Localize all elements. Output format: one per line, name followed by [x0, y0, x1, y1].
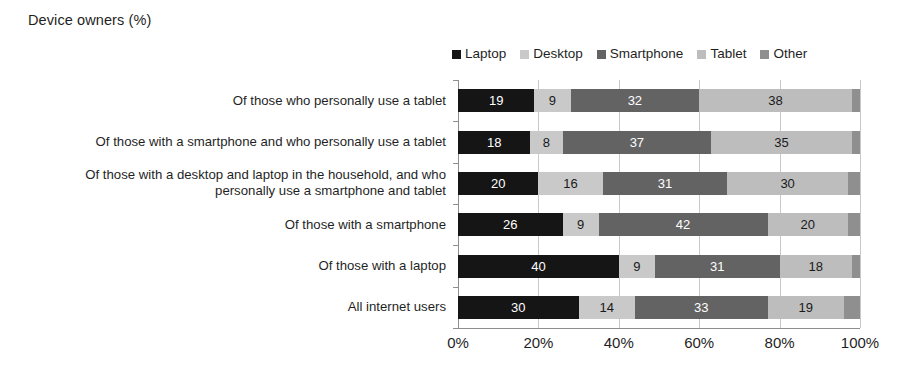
- bar-segment-value-label: 19: [798, 301, 812, 314]
- y-axis-tick-mark: [453, 287, 458, 288]
- legend-swatch-icon: [452, 50, 461, 59]
- x-axis-tick-label: 60%: [684, 334, 714, 351]
- bar-segment-other[interactable]: [848, 172, 860, 195]
- bar-segment-value-label: 32: [628, 94, 642, 107]
- legend-item-label: Laptop: [465, 47, 506, 61]
- bar-segment-value-label: 9: [577, 218, 584, 231]
- bar-segment-smartphone[interactable]: 31: [655, 255, 780, 278]
- bar-segment-value-label: 35: [774, 136, 788, 149]
- bar-segment-value-label: 31: [658, 177, 672, 190]
- bar-segment-desktop[interactable]: 9: [534, 89, 570, 112]
- y-axis-tick-mark: [453, 80, 458, 81]
- category-label: Of those with a laptop: [30, 258, 446, 274]
- bar-segment-laptop[interactable]: 30: [458, 296, 579, 319]
- x-axis-tick-label: 0%: [447, 334, 469, 351]
- legend-swatch-icon: [597, 50, 606, 59]
- legend-item-label: Other: [773, 47, 807, 61]
- bar-row[interactable]: 2694220: [458, 213, 860, 236]
- bar-segment-laptop[interactable]: 40: [458, 255, 619, 278]
- bar-segment-value-label: 38: [768, 94, 782, 107]
- legend-item-laptop[interactable]: Laptop: [452, 47, 506, 61]
- bar-segment-laptop[interactable]: 19: [458, 89, 534, 112]
- bar-row[interactable]: 20163130: [458, 172, 860, 195]
- bar-segment-value-label: 18: [809, 260, 823, 273]
- legend-item-tablet[interactable]: Tablet: [697, 47, 746, 61]
- bar-segment-value-label: 37: [630, 136, 644, 149]
- chart-title: Device owners (%): [28, 12, 151, 28]
- y-axis-tick-mark: [453, 328, 458, 329]
- gridline: [619, 80, 620, 328]
- bar-segment-tablet[interactable]: 19: [768, 296, 844, 319]
- bar-segment-desktop[interactable]: 8: [530, 131, 562, 154]
- bar-segment-laptop[interactable]: 20: [458, 172, 538, 195]
- bar-segment-desktop[interactable]: 9: [563, 213, 599, 236]
- bar-segment-smartphone[interactable]: 32: [571, 89, 700, 112]
- bar-row[interactable]: 1993238: [458, 89, 860, 112]
- bar-segment-tablet[interactable]: 35: [711, 131, 852, 154]
- bar-segment-tablet[interactable]: 30: [727, 172, 848, 195]
- bar-segment-laptop[interactable]: 18: [458, 131, 530, 154]
- bar-segment-desktop[interactable]: 16: [538, 172, 602, 195]
- bar-segment-value-label: 9: [633, 260, 640, 273]
- category-label: Of those with a desktop and laptop in th…: [30, 167, 446, 199]
- x-axis-tick-label: 40%: [604, 334, 634, 351]
- bar-segment-other[interactable]: [852, 131, 860, 154]
- bar-row[interactable]: 30143319: [458, 296, 860, 319]
- bar-segment-value-label: 42: [676, 218, 690, 231]
- legend-item-other[interactable]: Other: [760, 47, 807, 61]
- y-axis-tick-mark: [453, 245, 458, 246]
- bar-segment-other[interactable]: [848, 213, 860, 236]
- x-axis-tick-label: 80%: [765, 334, 795, 351]
- bar-segment-smartphone[interactable]: 37: [563, 131, 712, 154]
- bar-segment-value-label: 30: [780, 177, 794, 190]
- bar-segment-smartphone[interactable]: 31: [603, 172, 728, 195]
- bar-segment-tablet[interactable]: 18: [780, 255, 852, 278]
- category-label: Of those with a smartphone: [30, 217, 446, 233]
- bar-segment-smartphone[interactable]: 33: [635, 296, 768, 319]
- bar-segment-value-label: 20: [800, 218, 814, 231]
- legend-item-smartphone[interactable]: Smartphone: [597, 47, 684, 61]
- bar-segment-other[interactable]: [852, 255, 860, 278]
- legend-swatch-icon: [760, 50, 769, 59]
- y-axis-tick-mark: [453, 163, 458, 164]
- bar-row[interactable]: 4093118: [458, 255, 860, 278]
- bar-segment-value-label: 26: [503, 218, 517, 231]
- bar-segment-laptop[interactable]: 26: [458, 213, 563, 236]
- gridline: [699, 80, 700, 328]
- bar-segment-value-label: 9: [549, 94, 556, 107]
- x-axis-line: [458, 328, 860, 329]
- bar-segment-value-label: 31: [710, 260, 724, 273]
- bar-segment-value-label: 14: [599, 301, 613, 314]
- category-label: Of those who personally use a tablet: [30, 93, 446, 109]
- bar-segment-value-label: 40: [531, 260, 545, 273]
- category-label: All internet users: [30, 299, 446, 315]
- bar-segment-value-label: 18: [487, 136, 501, 149]
- category-label: Of those with a smartphone and who perso…: [30, 134, 446, 150]
- category-axis-labels: Of those who personally use a tabletOf t…: [30, 80, 452, 328]
- bar-segment-desktop[interactable]: 9: [619, 255, 655, 278]
- gridline: [538, 80, 539, 328]
- chart-container: Device owners (%) LaptopDesktopSmartphon…: [0, 0, 916, 374]
- legend-swatch-icon: [520, 50, 529, 59]
- bar-segment-tablet[interactable]: 20: [768, 213, 848, 236]
- gridline: [860, 80, 861, 328]
- y-axis-tick-mark: [453, 121, 458, 122]
- plot-area: 1993238188373520163130269422040931183014…: [458, 80, 860, 328]
- bar-segment-value-label: 16: [563, 177, 577, 190]
- bar-segment-other[interactable]: [844, 296, 860, 319]
- bar-segment-other[interactable]: [852, 89, 860, 112]
- legend-item-label: Tablet: [710, 47, 746, 61]
- bar-segment-desktop[interactable]: 14: [579, 296, 635, 319]
- bar-segment-value-label: 8: [543, 136, 550, 149]
- y-axis-tick-mark: [453, 204, 458, 205]
- legend-item-desktop[interactable]: Desktop: [520, 47, 583, 61]
- legend-swatch-icon: [697, 50, 706, 59]
- bar-row[interactable]: 1883735: [458, 131, 860, 154]
- bar-segment-smartphone[interactable]: 42: [599, 213, 768, 236]
- bar-segment-value-label: 33: [694, 301, 708, 314]
- bar-segment-value-label: 19: [489, 94, 503, 107]
- y-axis-line: [458, 80, 459, 328]
- bar-segment-value-label: 30: [511, 301, 525, 314]
- legend-item-label: Desktop: [533, 47, 583, 61]
- bar-segment-tablet[interactable]: 38: [699, 89, 852, 112]
